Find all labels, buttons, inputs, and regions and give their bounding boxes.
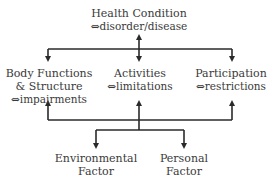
environmental-factor-title: Environmental — [55, 152, 137, 165]
node-participation: Participation ⇔restrictions — [195, 67, 267, 93]
environmental-factor-title2: Factor — [55, 165, 137, 178]
activities-title: Activities — [107, 67, 172, 80]
node-personal-factor: Personal Factor — [160, 152, 208, 178]
health-condition-title: Health Condition — [91, 7, 188, 20]
node-activities: Activities ⇔limitations — [107, 67, 172, 93]
body-functions-title2: & Structure — [6, 80, 93, 93]
node-body-functions: Body Functions & Structure ⇔impairments — [6, 67, 93, 106]
personal-factor-title2: Factor — [160, 165, 208, 178]
health-condition-sub: ⇔disorder/disease — [91, 20, 188, 33]
personal-factor-title: Personal — [160, 152, 208, 165]
body-functions-title: Body Functions — [6, 67, 93, 80]
participation-sub: ⇔restrictions — [195, 80, 267, 93]
node-environmental-factor: Environmental Factor — [55, 152, 137, 178]
node-health-condition: Health Condition ⇔disorder/disease — [91, 7, 188, 33]
body-functions-sub: ⇔impairments — [6, 93, 93, 106]
participation-title: Participation — [195, 67, 267, 80]
activities-sub: ⇔limitations — [107, 80, 172, 93]
